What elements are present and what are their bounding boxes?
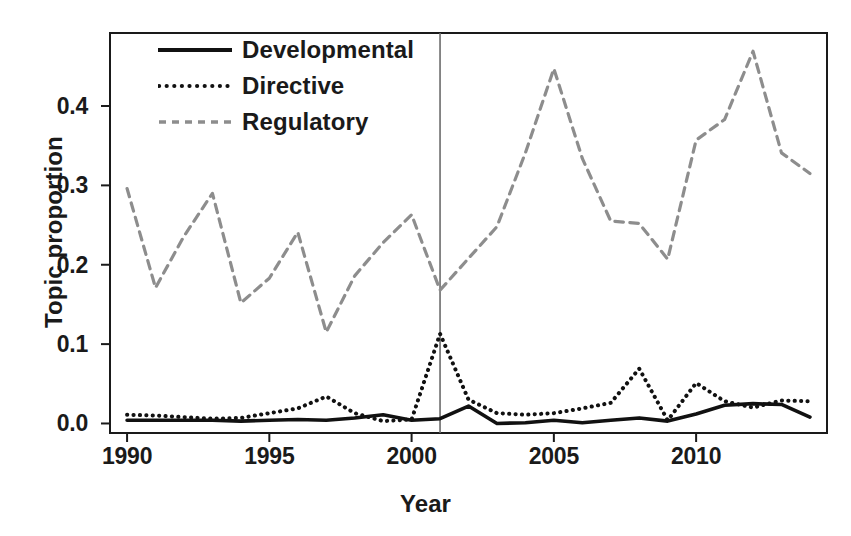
legend-label-directive: Directive (242, 74, 344, 98)
legend-label-developmental: Developmental (242, 38, 414, 62)
x-tick-label: 1990 (102, 443, 152, 470)
x-axis-title: Year (0, 490, 851, 518)
x-tick-label: 2005 (529, 443, 579, 470)
legend-label-regulatory: Regulatory (242, 110, 368, 134)
legend-item-regulatory: Regulatory (158, 104, 414, 140)
x-tick-label: 2000 (386, 443, 436, 470)
legend-swatch-solid-line-icon (158, 40, 232, 60)
y-tick-label: 0.1 (57, 331, 88, 358)
series-line-developmental (127, 404, 810, 424)
legend-swatch-dashed-line-icon (158, 112, 232, 132)
chart-figure: Topic proportion Year 199019952000200520… (0, 0, 851, 536)
legend-item-directive: Directive (158, 68, 414, 104)
y-tick-label: 0.3 (57, 172, 88, 199)
x-tick-label: 2010 (671, 443, 721, 470)
x-tick-label: 1995 (244, 443, 294, 470)
y-tick-label: 0.4 (57, 93, 88, 120)
legend-item-developmental: Developmental (158, 32, 414, 68)
chart-legend: Developmental Directive Regulatory (158, 32, 414, 140)
y-tick-label: 0.2 (57, 251, 88, 278)
legend-swatch-dotted-line-icon (158, 76, 232, 96)
y-tick-label: 0.0 (57, 410, 88, 437)
